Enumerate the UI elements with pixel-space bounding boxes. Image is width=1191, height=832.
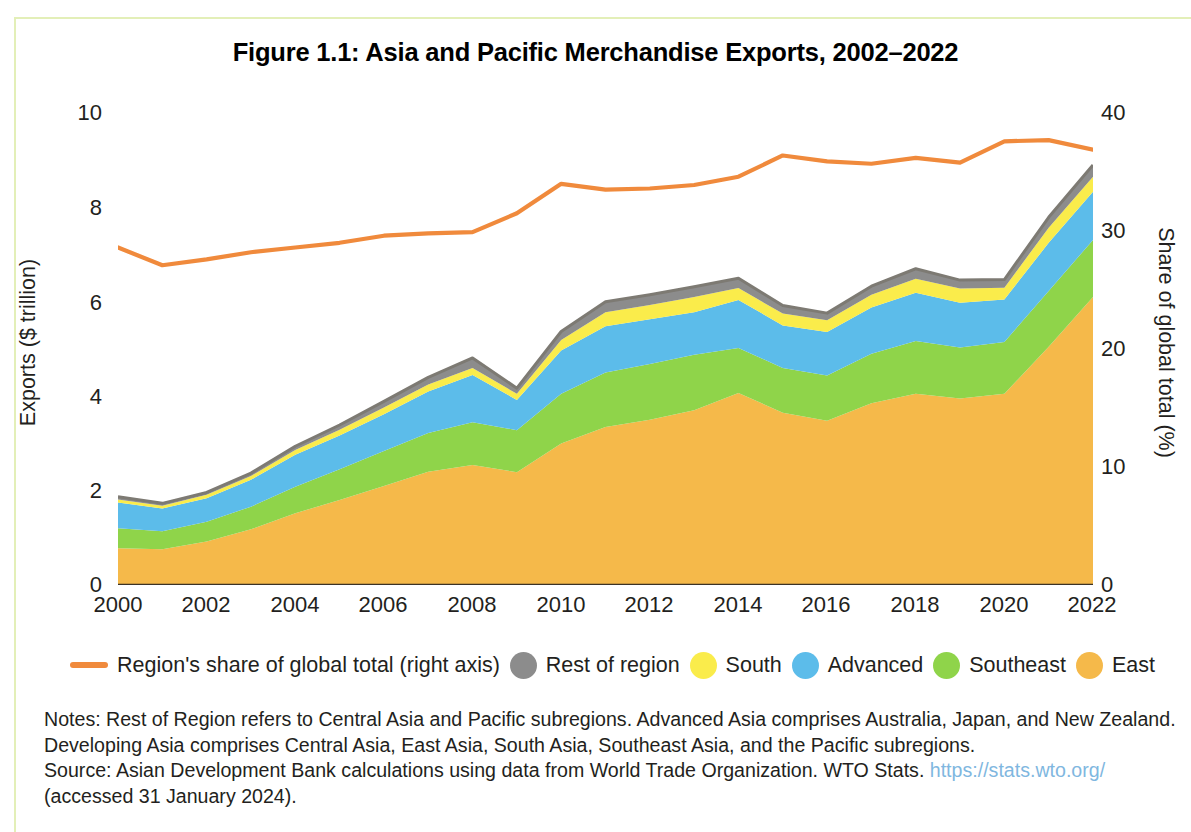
notes-line-3: Source: Asian Development Bank calculati… <box>44 758 1164 784</box>
legend-item-advanced[interactable]: Advanced <box>792 652 924 679</box>
area-series-group <box>118 165 1093 585</box>
notes-line-2: Developing Asia comprises Central Asia, … <box>44 733 1164 759</box>
x-tick-2002: 2002 <box>161 592 251 618</box>
y-axis-left-label: Exports ($ trillion) <box>16 143 41 543</box>
y-tick-left-4: 4 <box>62 384 102 410</box>
wto-stats-link[interactable]: https://stats.wto.org/ <box>930 759 1105 781</box>
circle-marker-icon <box>510 652 537 679</box>
page-border-top <box>14 17 1191 19</box>
x-tick-2018: 2018 <box>870 592 960 618</box>
x-tick-2016: 2016 <box>781 592 871 618</box>
y-tick-left-6: 6 <box>62 290 102 316</box>
notes-line-4: (accessed 31 January 2024). <box>44 784 1164 810</box>
chart-legend: Region's share of global total (right ax… <box>70 645 1155 685</box>
x-tick-2000: 2000 <box>73 592 163 618</box>
x-tick-2022: 2022 <box>1047 592 1137 618</box>
y-tick-right-30: 30 <box>1101 218 1147 244</box>
legend-item-south[interactable]: South <box>690 652 782 679</box>
figure-notes: Notes: Rest of Region refers to Central … <box>44 707 1164 809</box>
legend-label-southeast: Southeast <box>969 653 1066 678</box>
share-of-global-total-line <box>118 140 1093 265</box>
figure-title: Figure 1.1: Asia and Pacific Merchandise… <box>0 38 1191 67</box>
y-tick-right-20: 20 <box>1101 336 1147 362</box>
x-tick-2020: 2020 <box>959 592 1049 618</box>
circle-marker-icon <box>1076 652 1103 679</box>
y-tick-right-10: 10 <box>1101 454 1147 480</box>
y-tick-left-10: 10 <box>62 100 102 126</box>
legend-item-share[interactable]: Region's share of global total (right ax… <box>70 653 500 678</box>
x-tick-2006: 2006 <box>338 592 428 618</box>
legend-label-rest-of-region: Rest of region <box>546 653 680 678</box>
circle-marker-icon <box>792 652 819 679</box>
x-tick-2004: 2004 <box>250 592 340 618</box>
y-tick-right-40: 40 <box>1101 100 1147 126</box>
x-tick-2008: 2008 <box>427 592 517 618</box>
circle-marker-icon <box>933 652 960 679</box>
legend-item-southeast[interactable]: Southeast <box>933 652 1066 679</box>
legend-label-share: Region's share of global total (right ax… <box>117 653 500 678</box>
legend-label-south: South <box>726 653 782 678</box>
x-tick-2012: 2012 <box>604 592 694 618</box>
chart-plot-area <box>118 113 1093 585</box>
stacked-area-chart <box>118 113 1093 585</box>
legend-item-rest-of-region[interactable]: Rest of region <box>510 652 680 679</box>
y-axis-right-label: Share of global total (%) <box>1153 143 1178 543</box>
legend-label-east: East <box>1112 653 1155 678</box>
legend-label-advanced: Advanced <box>828 653 924 678</box>
y-tick-left-2: 2 <box>62 478 102 504</box>
y-tick-left-8: 8 <box>62 195 102 221</box>
circle-marker-icon <box>690 652 717 679</box>
legend-item-east[interactable]: East <box>1076 652 1155 679</box>
x-tick-2014: 2014 <box>693 592 783 618</box>
figure-page: Figure 1.1: Asia and Pacific Merchandise… <box>0 0 1191 832</box>
line-marker-icon <box>70 662 108 668</box>
notes-source-text: Source: Asian Development Bank calculati… <box>44 759 930 781</box>
x-tick-2010: 2010 <box>516 592 606 618</box>
notes-line-1: Notes: Rest of Region refers to Central … <box>44 707 1164 733</box>
